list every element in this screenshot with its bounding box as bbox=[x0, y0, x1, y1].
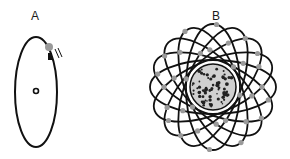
nucleon bbox=[198, 95, 201, 98]
electron-b bbox=[259, 115, 264, 120]
nucleon bbox=[201, 72, 203, 74]
nucleon bbox=[193, 90, 195, 92]
electron-b bbox=[244, 119, 249, 124]
nucleon bbox=[202, 104, 205, 107]
nucleon bbox=[223, 99, 225, 101]
nucleon bbox=[223, 88, 226, 91]
electron-b bbox=[180, 108, 185, 113]
electron-b bbox=[207, 147, 212, 152]
nucleon bbox=[217, 81, 220, 84]
nucleon bbox=[224, 73, 226, 75]
nucleon bbox=[222, 76, 225, 79]
electron-b bbox=[226, 41, 231, 46]
nucleon bbox=[212, 74, 216, 78]
nucleon bbox=[228, 76, 231, 79]
electron-b bbox=[231, 64, 236, 69]
nucleon bbox=[210, 106, 212, 108]
panel-b-multi-electron-atom bbox=[144, 18, 281, 155]
nucleon bbox=[223, 70, 225, 72]
nucleon bbox=[222, 103, 224, 105]
electron-b bbox=[195, 128, 200, 133]
nucleon bbox=[206, 100, 208, 102]
electron-b bbox=[238, 140, 243, 145]
electron-b bbox=[223, 118, 228, 123]
electron-b bbox=[255, 51, 260, 56]
electron-b bbox=[214, 122, 219, 127]
electron-b bbox=[214, 22, 219, 27]
electron-b bbox=[259, 84, 264, 89]
nucleon bbox=[202, 95, 205, 98]
nucleon bbox=[215, 68, 218, 71]
electron-b bbox=[256, 64, 261, 69]
nucleon bbox=[197, 70, 201, 74]
electron-b bbox=[249, 93, 254, 98]
electron-b bbox=[190, 105, 195, 110]
nucleon bbox=[218, 89, 220, 91]
nucleon bbox=[192, 84, 194, 86]
electron-b bbox=[162, 53, 167, 58]
nucleon bbox=[198, 86, 201, 89]
nucleon bbox=[199, 91, 201, 93]
nucleus-b bbox=[190, 64, 236, 110]
nucleon bbox=[212, 84, 215, 87]
electron-a bbox=[45, 43, 53, 51]
nucleon bbox=[207, 77, 209, 79]
electron-b bbox=[155, 72, 160, 77]
electron-b bbox=[243, 36, 248, 41]
electron-b bbox=[178, 133, 183, 138]
nucleon bbox=[208, 89, 211, 92]
electron-b bbox=[182, 29, 187, 34]
electron-b bbox=[198, 51, 203, 56]
electron-b bbox=[207, 47, 212, 52]
nucleon bbox=[201, 68, 203, 70]
nucleon bbox=[208, 95, 211, 98]
nucleon bbox=[204, 91, 207, 94]
nucleon bbox=[210, 87, 213, 90]
electron-b bbox=[241, 61, 246, 66]
nucleon bbox=[209, 77, 212, 80]
nucleon bbox=[208, 98, 211, 101]
electron-b bbox=[266, 97, 271, 102]
electron-b bbox=[172, 76, 177, 81]
nucleon bbox=[225, 82, 229, 86]
motion-lines bbox=[55, 48, 62, 58]
nucleon bbox=[203, 73, 206, 76]
nucleon bbox=[192, 93, 194, 95]
nucleon bbox=[221, 95, 225, 99]
panel-a-hydrogen-atom bbox=[15, 37, 62, 147]
electron-b bbox=[161, 85, 166, 90]
electron-b bbox=[184, 76, 189, 81]
nucleus-a bbox=[34, 89, 39, 94]
nucleon bbox=[216, 93, 218, 95]
nucleon bbox=[221, 101, 223, 103]
nucleon bbox=[205, 87, 208, 90]
nucleon bbox=[202, 101, 206, 105]
electron-b bbox=[177, 50, 182, 55]
electron-b bbox=[237, 93, 242, 98]
atom-diagram bbox=[0, 0, 290, 159]
nucleon bbox=[206, 73, 209, 76]
nucleon bbox=[217, 97, 220, 100]
electron-b bbox=[166, 118, 171, 123]
nucleon bbox=[199, 81, 201, 83]
nucleon bbox=[223, 91, 227, 95]
electron-motion-mark bbox=[48, 53, 52, 60]
electron-b bbox=[165, 105, 170, 110]
